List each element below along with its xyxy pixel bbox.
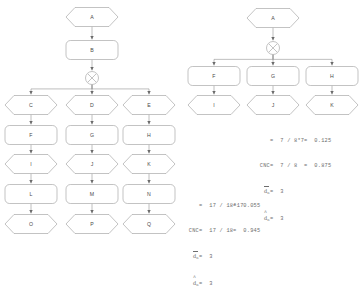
- bottom-metrics-line-1: = 17 / 18*17= 0.055: [177, 202, 269, 210]
- bottom-metrics-block: = 17 / 18*17= 0.055 CNC= 17 / 18= 0.945 …: [177, 186, 269, 290]
- node-label: I: [213, 102, 215, 108]
- node-I[interactable]: I: [188, 96, 240, 115]
- node-label: M: [90, 191, 94, 197]
- node-label: J: [91, 161, 94, 167]
- node-F[interactable]: F: [188, 67, 240, 86]
- node-M[interactable]: M: [66, 185, 118, 204]
- node-label: H: [330, 73, 334, 79]
- edge-GW-F: [214, 55, 273, 66]
- d-bar-c-symbol: dC: [193, 252, 199, 263]
- node-J[interactable]: J: [247, 96, 299, 115]
- node-A[interactable]: A: [247, 9, 299, 28]
- node-D[interactable]: D: [66, 96, 118, 115]
- node-label: D: [90, 102, 94, 108]
- node-label: O: [29, 221, 33, 227]
- node-B[interactable]: B: [66, 41, 118, 60]
- node-O[interactable]: O: [5, 215, 57, 234]
- edge-GW-C: [31, 85, 92, 95]
- node-H[interactable]: H: [306, 67, 358, 86]
- node-label: N: [147, 191, 151, 197]
- node-C[interactable]: C: [5, 96, 57, 115]
- node-label: F: [212, 73, 215, 79]
- node-label: Q: [147, 221, 151, 227]
- d-hat-c-symbol: ^dC: [193, 279, 199, 290]
- node-label: E: [147, 102, 151, 108]
- node-label: G: [271, 73, 275, 79]
- node-I[interactable]: I: [5, 155, 57, 174]
- right-metrics-line-1: = 7 / 8*7= 0.125: [248, 137, 340, 145]
- node-label: P: [90, 221, 94, 227]
- bottom-metrics-line-2: CNC= 17 / 18= 0.945: [177, 227, 269, 235]
- bottom-metrics-line-4: ^dC= 3: [177, 279, 269, 290]
- node-P[interactable]: P: [66, 215, 118, 234]
- node-K[interactable]: K: [123, 155, 175, 174]
- edge-GW-E: [92, 85, 149, 95]
- right-metrics-line-2: CNC= 7 / 8= 0.875: [248, 162, 340, 170]
- hat-mark: ^: [193, 276, 196, 281]
- node-label: G: [90, 132, 94, 138]
- node-G[interactable]: G: [247, 67, 299, 86]
- node-label: K: [330, 102, 334, 108]
- node-E[interactable]: E: [123, 96, 175, 115]
- node-label: F: [29, 132, 32, 138]
- node-F[interactable]: F: [5, 126, 57, 145]
- node-label: L: [30, 191, 33, 197]
- node-label: J: [272, 102, 275, 108]
- bottom-metrics-line-3: dC= 3: [177, 252, 269, 263]
- node-A[interactable]: A: [66, 8, 118, 27]
- node-Q[interactable]: Q: [123, 215, 175, 234]
- overline-mark: [193, 251, 198, 252]
- node-N[interactable]: N: [123, 185, 175, 204]
- node-H[interactable]: H: [123, 126, 175, 145]
- node-label: K: [147, 161, 151, 167]
- gateway-node-xor[interactable]: [86, 72, 99, 85]
- gateway-node-xor[interactable]: [267, 42, 280, 55]
- node-L[interactable]: L: [5, 185, 57, 204]
- node-label: A: [271, 15, 275, 21]
- edge-GW-H: [273, 55, 332, 66]
- node-label: A: [90, 14, 94, 20]
- node-label: C: [29, 102, 33, 108]
- node-K[interactable]: K: [306, 96, 358, 115]
- node-label: B: [90, 47, 94, 53]
- right-process-tree: AFGHIJK: [188, 9, 358, 115]
- node-label: H: [147, 132, 151, 138]
- node-G[interactable]: G: [66, 126, 118, 145]
- left-process-tree: ABCDEFGHIJKLMNOPQ: [5, 8, 175, 234]
- node-J[interactable]: J: [66, 155, 118, 174]
- node-label: I: [30, 161, 32, 167]
